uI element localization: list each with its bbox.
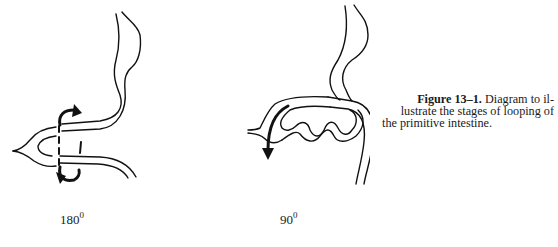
rotation-label-90: 900 — [280, 211, 298, 228]
degree-symbol: 0 — [80, 210, 85, 220]
rotation-arrow-head-icon — [262, 148, 274, 160]
rotation-label-180: 1800 — [60, 211, 84, 228]
intestine-loop-90-diagram — [220, 0, 370, 190]
degree-symbol: 0 — [293, 210, 298, 220]
caption-line-3: the primitive intestine. — [382, 117, 554, 129]
figure-caption: Figure 13–1. Diagram to il- lustrate the… — [382, 93, 554, 129]
rotation-arrow-head-top-icon — [72, 104, 82, 117]
intestine-loop-180-diagram — [0, 0, 150, 190]
